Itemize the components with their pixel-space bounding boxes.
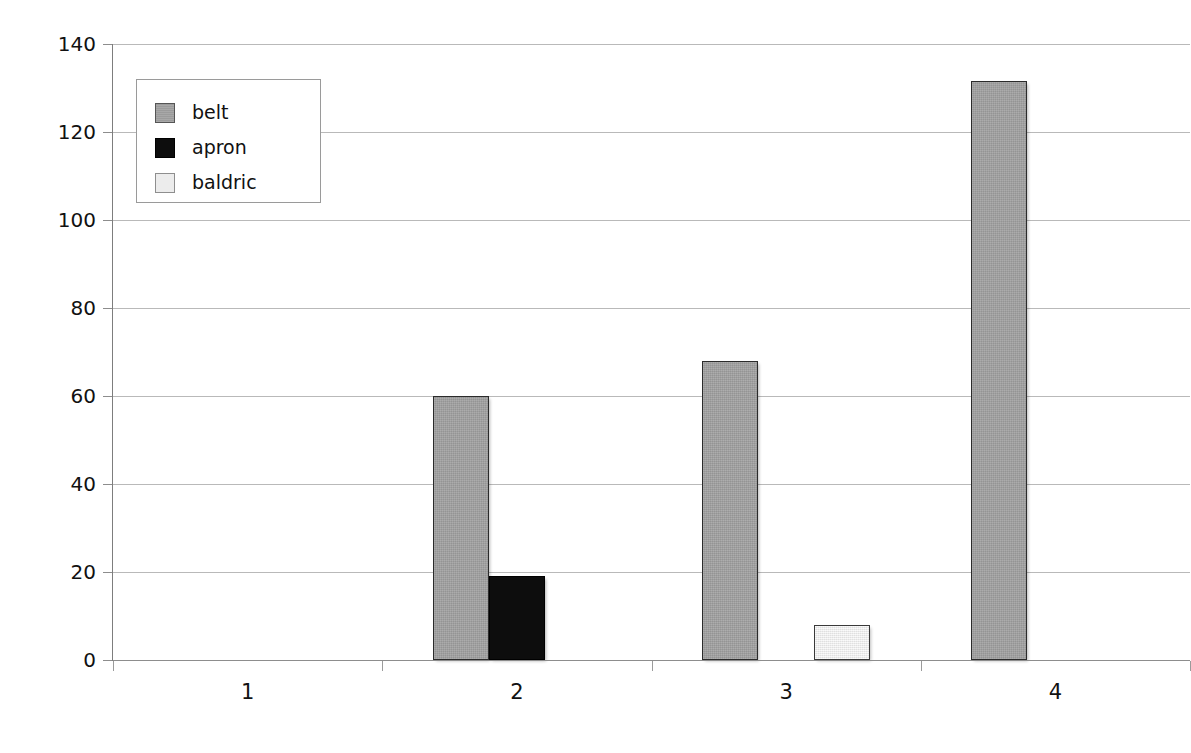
x-axis-tick [113, 661, 114, 671]
legend-item-baldric: baldric [155, 165, 320, 200]
legend: beltapronbaldric [136, 79, 321, 203]
bar-belt-4 [971, 81, 1027, 660]
x-axis-tick-label: 4 [995, 682, 1115, 703]
gridline [113, 308, 1190, 309]
legend-swatch-belt-icon [155, 103, 175, 123]
gridline [113, 572, 1190, 573]
x-axis-tick [921, 661, 922, 671]
x-axis-tick [382, 661, 383, 671]
y-axis-tick [103, 660, 112, 661]
y-axis-tick [103, 44, 112, 45]
legend-item-belt: belt [155, 95, 320, 130]
y-axis-tick-label: 20 [0, 562, 96, 582]
gridline [113, 44, 1190, 45]
gridline [113, 484, 1190, 485]
y-axis-tick [103, 484, 112, 485]
y-axis-tick-label: 120 [0, 122, 96, 142]
y-axis-tick-label: 100 [0, 210, 96, 230]
gridline [113, 396, 1190, 397]
y-axis-tick-label: 80 [0, 298, 96, 318]
y-axis-tick-label: 140 [0, 34, 96, 54]
bar-belt-3 [702, 361, 758, 660]
legend-label: belt [192, 103, 228, 122]
x-axis-tick-label: 2 [457, 682, 577, 703]
y-axis-tick-label: 0 [0, 650, 96, 670]
legend-label: apron [192, 138, 247, 157]
x-axis-tick [652, 661, 653, 671]
bar-apron-2 [489, 576, 545, 660]
x-axis-tick-label: 1 [188, 682, 308, 703]
x-axis-tick-label: 3 [726, 682, 846, 703]
y-axis-tick [103, 396, 112, 397]
y-axis-tick-label: 60 [0, 386, 96, 406]
legend-item-apron: apron [155, 130, 320, 165]
bar-belt-2 [433, 396, 489, 660]
bar-baldric-3 [814, 625, 870, 660]
y-axis-tick [103, 572, 112, 573]
gridline [113, 220, 1190, 221]
y-axis-tick [103, 220, 112, 221]
y-axis-tick [103, 132, 112, 133]
legend-swatch-baldric-icon [155, 173, 175, 193]
legend-swatch-apron-icon [155, 138, 175, 158]
legend-label: baldric [192, 173, 257, 192]
y-axis-tick [103, 308, 112, 309]
y-axis-tick-label: 40 [0, 474, 96, 494]
